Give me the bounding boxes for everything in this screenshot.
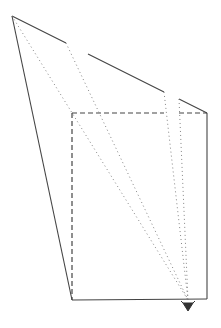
panel-left-edge <box>12 16 72 300</box>
panel-top-segment-2 <box>88 54 164 92</box>
panel-top-segment-1 <box>12 16 66 43</box>
sight-line-2 <box>66 43 188 300</box>
sight-line-3 <box>164 92 188 300</box>
eye-observer-icon <box>181 301 195 311</box>
sight-line-1 <box>12 16 188 300</box>
panel-top-segment-3 <box>179 99 207 113</box>
perspective-diagram <box>0 0 221 328</box>
box-bottom-edge <box>72 299 207 300</box>
sight-line-4 <box>179 99 188 300</box>
